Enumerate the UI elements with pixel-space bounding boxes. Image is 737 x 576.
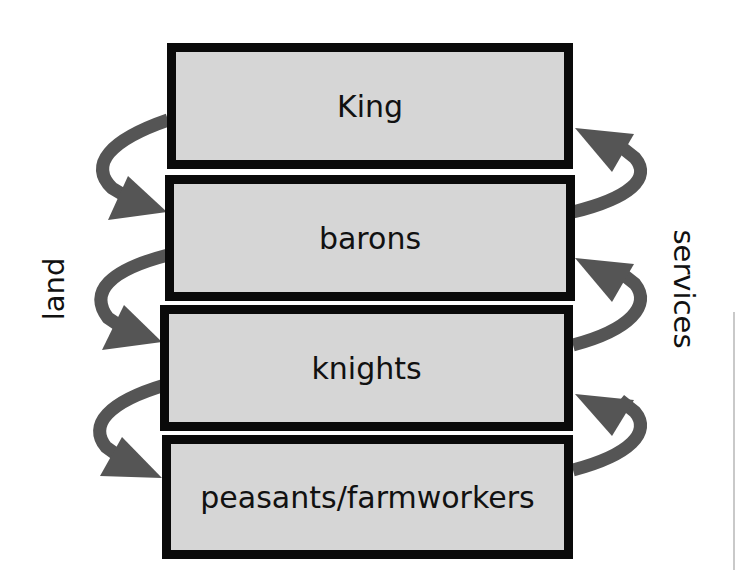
level-box-barons: barons [165,175,575,301]
page-edge-line [733,312,735,570]
level-label-king: King [337,89,403,124]
land-arrow-barons-to-knights [101,255,168,350]
level-label-knights: knights [311,351,421,386]
level-label-peasants: peasants/farmworkers [200,480,534,515]
level-label-barons: barons [319,221,421,256]
services-arrow-peasants-to-knights [573,394,641,470]
services-arrow-barons-to-king [573,128,641,212]
land-arrow-king-to-barons [102,120,168,220]
level-box-peasants: peasants/farmworkers [162,435,573,559]
level-box-king: King [167,43,573,169]
services-arrow-knights-to-barons [573,258,641,345]
services-label: services [667,229,701,349]
land-label: land [37,249,71,329]
land-arrow-knights-to-peasants [100,385,165,478]
level-box-knights: knights [160,305,573,431]
